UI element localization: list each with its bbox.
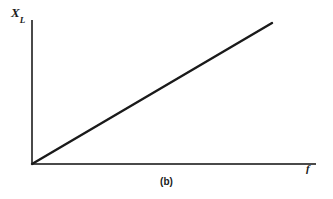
y-axis-label-subscript: L [20, 15, 26, 25]
x-axis-label: f [306, 163, 310, 174]
y-axis-label: XL [11, 6, 25, 23]
plot-canvas [0, 0, 333, 199]
figure-container: XL f (b) [0, 0, 333, 199]
figure-caption: (b) [0, 177, 333, 187]
y-axis-label-main: X [11, 5, 20, 20]
data-line-inductive-reactance [32, 23, 272, 164]
